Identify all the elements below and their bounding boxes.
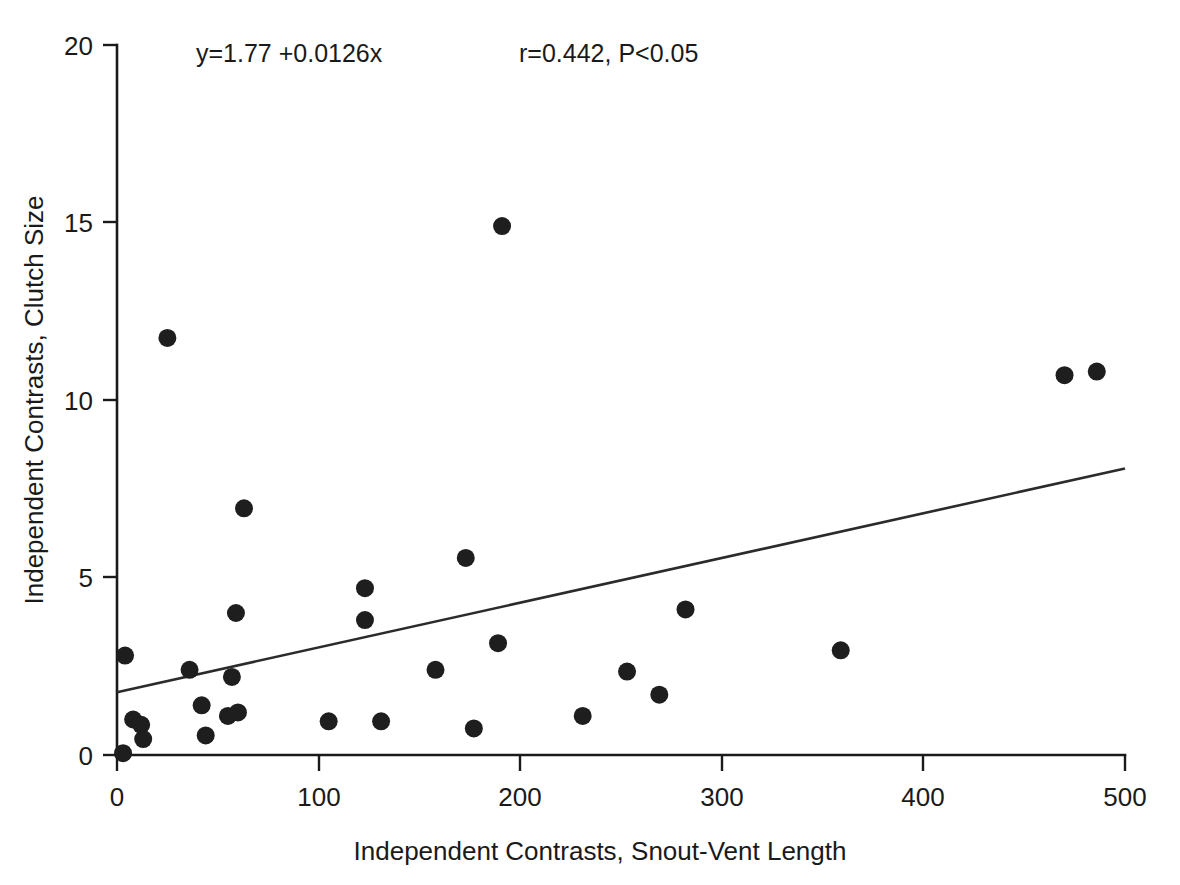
data-point	[618, 663, 636, 681]
data-point	[181, 661, 199, 679]
data-point	[229, 703, 247, 721]
data-point	[116, 647, 134, 665]
data-point	[227, 604, 245, 622]
y-tick-label-0: 0	[79, 741, 93, 771]
data-point	[1056, 366, 1074, 384]
x-tick-label-300: 300	[700, 782, 743, 812]
data-point	[493, 217, 511, 235]
y-tick-label-20: 20	[64, 31, 93, 61]
data-point	[1088, 363, 1106, 381]
data-point	[457, 549, 475, 567]
x-tick-label-200: 200	[498, 782, 541, 812]
x-tick-label-100: 100	[297, 782, 340, 812]
y-axis-ticks	[103, 45, 117, 755]
y-tick-label-5: 5	[79, 563, 93, 593]
x-tick-label-500: 500	[1103, 782, 1146, 812]
data-point	[158, 329, 176, 347]
regression-line	[117, 469, 1125, 693]
y-axis-title: Independent Contrasts, Clutch Size	[19, 195, 49, 604]
scatter-plot-figure: 0 5 10 15 20 0 100 200 300 400 500 Indep…	[0, 0, 1180, 885]
data-point	[427, 661, 445, 679]
data-point	[465, 719, 483, 737]
data-point	[193, 696, 211, 714]
data-point	[320, 712, 338, 730]
data-point	[372, 712, 390, 730]
data-point	[134, 730, 152, 748]
x-tick-label-0: 0	[110, 782, 124, 812]
x-axis-ticks	[117, 755, 1125, 771]
y-tick-label-10: 10	[64, 386, 93, 416]
data-point	[832, 641, 850, 659]
data-point	[356, 611, 374, 629]
data-point	[650, 686, 668, 704]
data-point	[489, 634, 507, 652]
data-points-group	[114, 217, 1106, 762]
x-axis-tick-labels: 0 100 200 300 400 500	[110, 782, 1147, 812]
statistics-annotation: r=0.442, P<0.05	[519, 39, 698, 67]
data-point	[574, 707, 592, 725]
plot-canvas: 0 5 10 15 20 0 100 200 300 400 500 Indep…	[0, 0, 1180, 885]
axes-group	[117, 45, 1125, 755]
equation-annotation: y=1.77 +0.0126x	[196, 39, 383, 67]
x-tick-label-400: 400	[901, 782, 944, 812]
data-point	[235, 499, 253, 517]
y-axis-tick-labels: 0 5 10 15 20	[64, 31, 93, 771]
x-axis-title: Independent Contrasts, Snout-Vent Length	[354, 836, 847, 866]
data-point	[677, 600, 695, 618]
data-point	[114, 744, 132, 762]
data-point	[197, 726, 215, 744]
y-tick-label-15: 15	[64, 208, 93, 238]
data-point	[356, 579, 374, 597]
data-point	[223, 668, 241, 686]
